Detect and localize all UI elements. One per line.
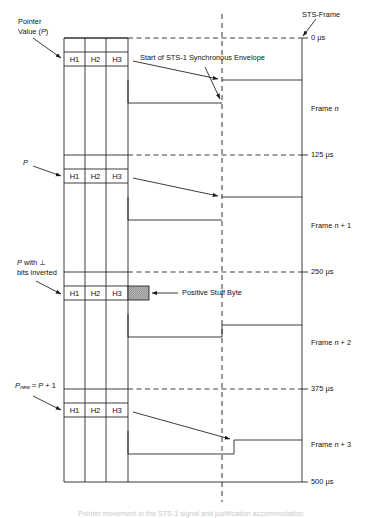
time-tick-label-500: 500 µs [311,477,333,486]
pointer-value-word: Value ( [18,27,41,36]
p-new-subscript: new [20,384,30,390]
p-inverted-label-line1: P with ⊥ [17,258,46,267]
frame-label-0-prefix: Frame [311,104,334,113]
p-leader-arrow [33,166,61,176]
byte-cell-h1-frame2: H1 [64,289,85,298]
positive-stuff-byte-cell [128,286,149,300]
p-new-label: Pnew = P + 1 [15,381,56,392]
frame-label-2-prefix: Frame [311,338,334,347]
frame-label-2: Frame n + 2 [311,338,351,347]
byte-cell-h2-frame2: H2 [85,289,106,298]
frame-label-0: Frame n [311,104,339,113]
p-inverted-text: with ⊥ [22,258,46,267]
p-inverted-leader-arrow [36,281,61,294]
byte-cell-h3-frame2: H3 [106,289,128,298]
frame-label-1-prefix: Frame [311,221,334,230]
p-inverted-label-line2: bits inverted [17,268,57,277]
positive-stuff-byte-label: Positive Stuff Byte [182,288,242,297]
byte-cell-h3-frame1: H3 [106,172,128,181]
time-tick-label-0: 0 µs [311,33,325,42]
frame-label-3-suffix: + 3 [339,440,352,449]
byte-cell-h3-frame0: H3 [106,55,128,64]
byte-cell-h2-frame0: H2 [85,55,106,64]
envelope-start-label: Start of STS-1 Synchronous Envelope [140,53,265,62]
pointer-value-label-line1: Pointer [18,17,41,26]
envelope-pointer-arrow-f3 [133,412,230,439]
time-tick-label-375: 375 µs [311,384,333,393]
p-new-equation: = P + 1 [30,381,56,390]
envelope-start-leader-arrow [205,67,220,99]
pointer-value-paren: ) [46,27,48,36]
figure-caption: Pointer movement in the STS-1 signal and… [78,509,303,518]
frame-label-1: Frame n + 1 [311,221,351,230]
envelope-pointer-arrow-f0 [133,61,218,79]
p-label: P [23,158,28,167]
byte-cell-h2-frame3: H2 [85,406,106,415]
pointer-value-label-line2: Value (P) [18,27,48,36]
time-tick-label-250: 250 µs [311,267,333,276]
time-tick-label-125: 125 µs [311,150,333,159]
byte-cell-h3-frame3: H3 [106,406,128,415]
byte-cell-h1-frame1: H1 [64,172,85,181]
frame-label-2-suffix: + 2 [339,338,352,347]
byte-cell-h1-frame3: H1 [64,406,85,415]
pointer-value-leader-arrow [33,38,61,58]
byte-cell-h1-frame0: H1 [64,55,85,64]
frame-label-3-prefix: Frame [311,440,334,449]
sts-frame-label: STS-Frame [302,10,340,19]
frame-label-3: Frame n + 3 [311,440,351,449]
frame-label-0-index: n [334,104,338,113]
envelope-pointer-arrow-f1 [133,178,218,196]
byte-cell-h2-frame1: H2 [85,172,106,181]
p-new-leader-arrow [33,396,61,410]
frame-label-1-suffix: + 1 [339,221,352,230]
